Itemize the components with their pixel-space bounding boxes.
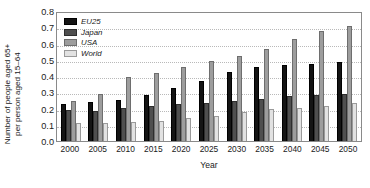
y-axis-title-line-2: per person aged 15–64 [13,44,24,145]
x-axis-tick-label: 2050 [339,144,358,158]
bar-group [282,13,302,141]
y-axis-tick-label: 0.3 [28,88,54,98]
bar-group [199,13,219,141]
bar-group [116,13,136,141]
x-axis-tick-label: 2030 [227,144,246,158]
y-axis-tick-label: 0.8 [28,7,54,17]
bar[interactable] [76,123,81,141]
legend-item[interactable]: USA [64,38,103,48]
bar-group [337,13,357,141]
bar[interactable] [103,123,108,141]
y-axis-tick-label: 0.5 [28,56,54,66]
legend: EU25JapanUSAWorld [64,17,103,58]
x-axis-tick-label: 2005 [88,144,107,158]
x-axis-tick-label: 2045 [311,144,330,158]
x-axis-tick-label: 2020 [172,144,191,158]
bar-group [227,13,247,141]
x-axis-tick-label: 2015 [144,144,163,158]
legend-swatch [64,18,77,25]
y-axis-title: Number of people aged 65+ per person age… [0,0,26,188]
legend-item[interactable]: EU25 [64,17,103,27]
legend-label: EU25 [81,17,101,26]
bar[interactable] [186,118,191,141]
y-axis-tick-label: 0.2 [28,105,54,115]
bar-group [171,13,191,141]
y-axis-ticks: 0.80.70.60.50.40.30.20.10.0 [26,0,54,188]
bar[interactable] [352,103,357,141]
y-axis-tick-label: 0.1 [28,121,54,131]
bar-group [144,13,164,141]
legend-label: World [81,49,102,58]
bar[interactable] [324,106,329,141]
y-axis-tick-label: 0.4 [28,72,54,82]
y-axis-title-line-1: Number of people aged 65+ [3,44,14,145]
legend-label: Japan [81,28,103,37]
x-axis-tick-label: 2000 [61,144,80,158]
x-axis-tick-label: 2010 [116,144,135,158]
bar[interactable] [269,109,274,141]
legend-swatch [64,39,77,46]
y-axis-tick-label: 0.6 [28,40,54,50]
legend-swatch [64,29,77,36]
bar[interactable] [131,122,136,141]
bar-group [254,13,274,141]
x-axis-tick-label: 2035 [255,144,274,158]
legend-item[interactable]: World [64,49,103,59]
legend-swatch [64,50,77,57]
bar[interactable] [159,121,164,141]
bar[interactable] [242,112,247,141]
x-axis-title: Year [56,160,362,170]
legend-label: USA [81,38,97,47]
bar[interactable] [214,116,219,141]
y-axis-tick-label: 0.0 [28,137,54,147]
y-axis-tick-label: 0.7 [28,23,54,33]
legend-item[interactable]: Japan [64,28,103,38]
x-axis-tick-label: 2025 [200,144,219,158]
bar-group [309,13,329,141]
x-axis-ticks: 2000200520102015202020252030203520402045… [56,144,362,158]
x-axis-tick-label: 2040 [283,144,302,158]
bar-chart: Number of people aged 65+ per person age… [0,0,370,188]
bar[interactable] [297,108,302,141]
